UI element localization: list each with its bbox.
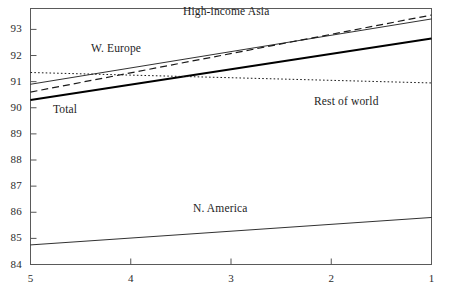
y-axis-tick-label: 84: [2, 259, 22, 270]
y-axis-tick-label: 85: [2, 232, 22, 243]
y-axis-tick-label: 89: [2, 128, 22, 139]
chart-figure: 93929190898887868584 54321 High-income A…: [0, 0, 449, 287]
y-axis-tick-label: 88: [2, 154, 22, 165]
series-label-w-europe: W. Europe: [91, 42, 141, 54]
series-label-high-income-asia: High-income Asia: [183, 5, 269, 17]
x-axis-tick-label: 5: [22, 273, 40, 284]
chart-plot-area: [0, 0, 449, 287]
y-axis-tick-label: 90: [2, 102, 22, 113]
y-axis-tick-label: 87: [2, 180, 22, 191]
y-axis-tick-label: 93: [2, 23, 22, 34]
x-axis-tick-label: 2: [322, 273, 340, 284]
y-axis-tick-label: 92: [2, 50, 22, 61]
series-label-n-america: N. America: [193, 202, 248, 214]
y-axis-tick-label: 91: [2, 76, 22, 87]
x-axis-tick-label: 3: [222, 273, 240, 284]
y-axis-tick-label: 86: [2, 206, 22, 217]
x-axis-tick-label: 1: [423, 273, 441, 284]
series-label-total: Total: [53, 103, 77, 115]
series-label-rest-of-world: Rest of world: [314, 95, 379, 107]
x-axis-tick-label: 4: [122, 273, 140, 284]
